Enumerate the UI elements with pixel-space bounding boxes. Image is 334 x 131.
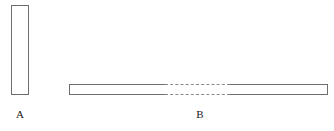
- shape-b-left-segment: [69, 84, 165, 95]
- shape-b-label: B: [180, 108, 220, 120]
- shape-a-label: A: [0, 108, 40, 120]
- figure-canvas: A B: [0, 0, 334, 131]
- shape-b-break-top-dashed-line: [165, 84, 230, 85]
- shape-a-rectangle: [11, 5, 29, 95]
- shape-b-break-region: [165, 84, 230, 95]
- shape-b-break-bottom-dashed-line: [165, 94, 230, 95]
- shape-b-rectangle: [69, 84, 328, 95]
- shape-b-right-segment: [230, 84, 328, 95]
